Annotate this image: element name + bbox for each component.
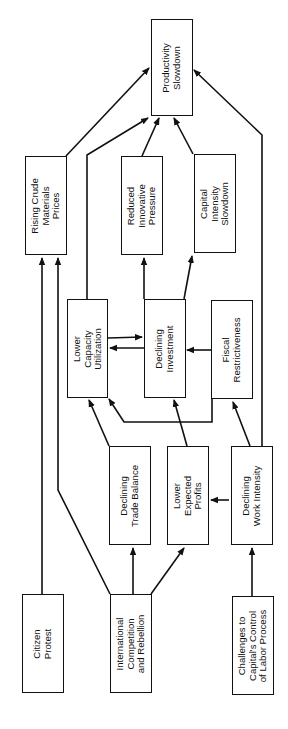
edge-profits-to-investment — [174, 400, 187, 446]
node-label: Fiscal Restrictiveness — [221, 317, 242, 382]
node-fiscal-restrictiveness: Fiscal Restrictiveness — [211, 300, 253, 399]
node-label: Reduced Innovative Pressure — [126, 184, 158, 228]
node-label: Challenges to Capital's Control of Labor… — [237, 609, 269, 682]
node-declining-investment: Declining Investment — [144, 299, 186, 398]
edge-work-intensity-to-fiscal — [233, 402, 250, 446]
node-label: Declining Trade Balance — [119, 464, 140, 526]
edge-capacity-to-investment — [108, 337, 142, 338]
node-label: Lower Capacity Utilization — [72, 328, 104, 370]
node-challenges-to-capitals-control: Challenges to Capital's Control of Labor… — [232, 596, 274, 695]
node-label: International Competition and Rebellion — [115, 614, 147, 673]
node-capital-intensity-slowdown: Capital Intensity Slowdown — [194, 154, 236, 253]
node-label: Citizen Protest — [32, 628, 53, 658]
node-reduced-innovative-pressure: Reduced Innovative Pressure — [121, 156, 163, 255]
edge-reduced-innovative-to-productivity — [142, 118, 159, 156]
node-declining-trade-balance: Declining Trade Balance — [109, 446, 151, 545]
edge-intl-to-profits — [151, 548, 184, 594]
edge-investment-to-capital-intensity — [184, 256, 192, 299]
node-label: Declining Investment — [154, 325, 175, 372]
node-international-competition-and-rebellion: International Competition and Rebellion — [110, 594, 152, 693]
node-lower-capacity-utilization: Lower Capacity Utilization — [67, 299, 108, 398]
node-label: Lower Expected Profits — [172, 475, 204, 515]
node-citizen-protest: Citizen Protest — [22, 594, 64, 693]
node-declining-work-intensity: Declining Work Intensity — [231, 446, 273, 545]
node-label: Capital Intensity Slowdown — [199, 182, 231, 226]
edge-capital-intensity-to-productivity — [174, 118, 193, 154]
node-label: Rising Crude Materials Prices — [30, 178, 62, 233]
node-rising-crude-materials-prices: Rising Crude Materials Prices — [25, 156, 67, 255]
node-productivity-slowdown: Productivity Slowdown — [151, 19, 193, 116]
node-label: Declining Work Intensity — [241, 465, 262, 526]
edge-fiscal-to-capacity — [109, 398, 212, 422]
edge-trade-balance-to-capacity — [89, 400, 109, 446]
node-lower-expected-profits: Lower Expected Profits — [167, 446, 209, 545]
node-label: Productivity Slowdown — [161, 43, 182, 93]
